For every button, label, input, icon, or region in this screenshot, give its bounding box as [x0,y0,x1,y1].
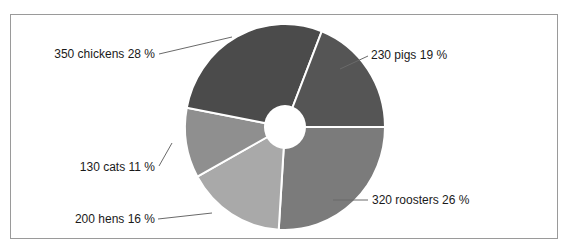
slice-label-hens: 200 hens 16 % [75,212,155,226]
leader-line-hens [158,213,212,219]
donut-hole [264,105,306,149]
slice-label-roosters: 320 roosters 26 % [372,193,470,207]
leader-line-cats [159,143,172,166]
slice-label-chickens: 350 chickens 28 % [54,47,155,61]
donut-chart: 320 roosters 26 % 200 hens 16 % 130 cats… [0,0,569,246]
slice-label-pigs: 230 pigs 19 % [371,48,447,62]
slice-label-cats: 130 cats 11 % [80,160,155,174]
